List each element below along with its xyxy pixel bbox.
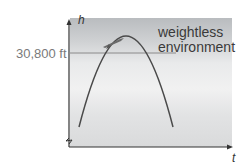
x-axis-arrow-icon <box>227 145 233 150</box>
airplane-icon <box>103 38 124 49</box>
annotation-weightless: weightless <box>158 25 223 39</box>
y-axis-arrow-icon <box>67 19 72 25</box>
annotation-environment: environment <box>158 40 235 54</box>
reference-height-label: 30,800 ft <box>16 46 67 61</box>
y-axis-label: h <box>78 13 85 27</box>
x-axis-label: t <box>232 151 235 165</box>
